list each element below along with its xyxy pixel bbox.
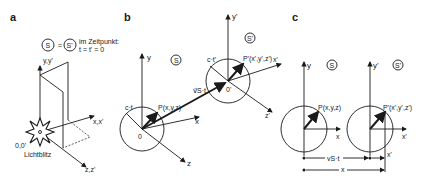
point-label-s: P(x,y,z) <box>158 104 181 112</box>
panel-a-label: a <box>10 11 17 23</box>
radius-line-s <box>126 113 142 129</box>
equals-sign: = <box>58 42 62 49</box>
frame-s-prime-label-c: S' <box>395 62 401 69</box>
point-label-s-prime: P'(x',y',z') <box>243 55 272 63</box>
origin-label-s-prime: 0' <box>226 86 231 93</box>
frame-s-label-b: S <box>174 57 179 64</box>
panel-a: a S = S' im Zeitpunkt: t = t' = 0 y,y' x… <box>10 11 119 173</box>
axis-z-label: z,z' <box>85 166 95 173</box>
frame-s-label-c: S <box>330 62 335 69</box>
axis-x-label-c: x <box>336 133 340 140</box>
axis-y-label-c-prime: y' <box>373 61 379 70</box>
dim-dot-s <box>303 157 306 160</box>
dim-dot-x <box>303 169 306 172</box>
vector-p-c-prime <box>370 112 385 129</box>
axis-y-label: y,y' <box>43 57 53 65</box>
axis-y-label-s: y <box>147 53 151 62</box>
panel-b-label: b <box>124 11 131 23</box>
axis-x-label-c-prime: x' <box>402 133 407 140</box>
relativity-figure: a S = S' im Zeitpunkt: t = t' = 0 y,y' x… <box>0 0 438 183</box>
radius-label-s-prime: c·t' <box>207 56 216 63</box>
dim-dot-s-prime <box>369 157 372 160</box>
point-label-c-prime: P'(x',y',z') <box>383 104 412 112</box>
velocity-label: v⃗S·t <box>193 87 206 94</box>
axis-z-label-s-prime: z' <box>265 112 270 119</box>
panel-c: c y S x P(x,y,z) y' S' x' P'(x',y',z') v… <box>281 11 412 174</box>
axis-x-label-s: x <box>195 117 199 126</box>
z-axis-s-prime <box>228 81 272 112</box>
origin-label-s: 0 <box>138 133 142 140</box>
caption-line1: im Zeitpunkt: <box>79 38 119 46</box>
frame-s-label: S <box>46 42 51 49</box>
vector-p-c <box>304 112 318 129</box>
axis-y-label-s-prime: y' <box>232 12 238 21</box>
panel-c-label: c <box>292 11 298 23</box>
origin-label: 0,0' <box>15 142 26 149</box>
dim-x-label: x <box>341 166 345 173</box>
axis-y-label-c: y <box>307 61 311 70</box>
axis-z-label-s: z <box>187 159 191 168</box>
flash-label: Lichtblitz <box>24 151 52 158</box>
frame-s-prime-label: S' <box>67 42 73 49</box>
dim-x-prime-label: x' <box>387 151 392 158</box>
wavefront-plane-back <box>40 62 68 120</box>
point-label-c: P(x,y,z) <box>318 104 341 112</box>
light-flash-icon <box>26 118 54 146</box>
radius-label-s: c·t <box>125 104 133 111</box>
velocity-vector <box>142 83 225 129</box>
axis-x-label-s-prime: x' <box>273 56 278 63</box>
radius-line-s-prime <box>210 66 228 81</box>
frame-s-prime-label-b: S' <box>247 35 253 42</box>
axis-x-label: x,x' <box>93 118 103 125</box>
panel-b: b y S x z c·t P(x,y,z) 0 v⃗S·t y' S' x' … <box>120 11 281 168</box>
dim-vst-label: vS·t <box>327 155 340 162</box>
caption-line2: t = t' = 0 <box>79 46 104 53</box>
